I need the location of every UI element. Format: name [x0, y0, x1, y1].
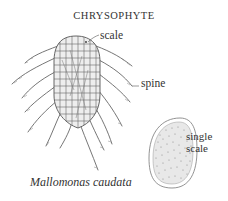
- single-scale-label: single scale: [186, 130, 212, 154]
- single-scale-label-line1: single: [186, 130, 212, 142]
- scale-label: scale: [100, 29, 123, 41]
- spine-label: spine: [141, 77, 165, 89]
- cell-body: [50, 34, 104, 130]
- single-scale-label-line2: scale: [186, 142, 212, 154]
- species-name: Mallomonas caudata: [30, 175, 132, 190]
